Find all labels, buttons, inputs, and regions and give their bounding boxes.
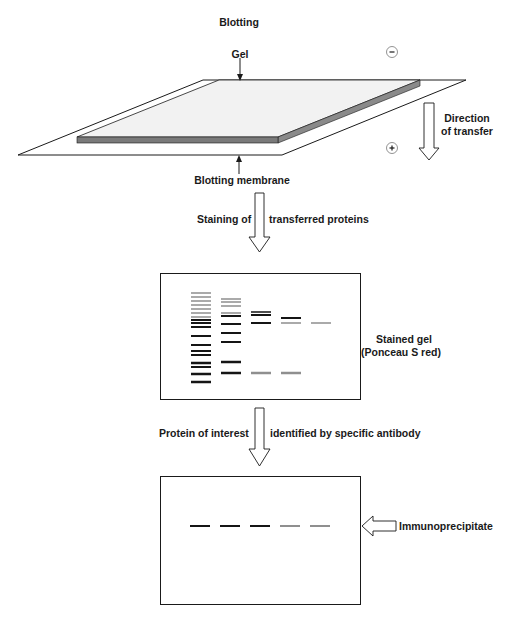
gel-label: Gel <box>232 48 249 61</box>
stained-band-lane-3 <box>251 372 271 375</box>
staining-label-right: transferred proteins <box>269 213 369 226</box>
stained-gel-line-1: Stained gel <box>367 333 441 346</box>
stained-band-lane-4 <box>281 317 301 319</box>
stained-band-lane-1 <box>191 335 211 337</box>
antibody-arrow-icon <box>249 408 270 466</box>
stained-band-lane-1 <box>191 296 211 298</box>
stained-band-lane-1 <box>191 292 211 294</box>
stained-band-lane-1 <box>191 308 211 310</box>
immunoblot-band-lane-4 <box>280 525 300 527</box>
stained-band-lane-5 <box>311 322 331 324</box>
stained-band-lane-1 <box>191 366 211 368</box>
immunoblot-band-lane-5 <box>310 525 330 527</box>
stained-gel-label: Stained gel (Ponceau S red) <box>367 333 441 359</box>
stained-gel-line-2: (Ponceau S red) <box>361 346 441 359</box>
stained-band-lane-2 <box>221 298 241 300</box>
staining-arrow-icon <box>249 193 270 252</box>
stained-band-lane-2 <box>221 341 241 343</box>
stained-band-lane-1 <box>191 312 211 314</box>
stained-band-lane-1 <box>191 373 211 376</box>
stained-band-lane-1 <box>191 354 211 356</box>
protein-of-interest-label: Protein of interest <box>159 427 249 440</box>
direction-line-2: of transfer <box>441 125 493 138</box>
staining-label-left: Staining of <box>197 213 251 226</box>
stained-band-lane-1 <box>191 319 211 321</box>
direction-line-1: Direction <box>441 112 493 125</box>
stained-band-lane-1 <box>191 322 211 324</box>
gel-front-face <box>77 137 278 143</box>
stained-band-lane-2 <box>221 315 241 317</box>
direction-of-transfer-arrow-icon <box>419 103 439 160</box>
stained-band-lane-1 <box>191 344 211 346</box>
stained-band-lane-2 <box>221 361 241 364</box>
stained-band-lane-3 <box>251 314 271 316</box>
immunoblot-band-lane-2 <box>220 525 240 527</box>
blotting-membrane-label: Blotting membrane <box>194 174 290 187</box>
stained-gel-box <box>161 274 361 400</box>
stained-band-lane-1 <box>191 350 211 352</box>
immunoblot-band-lane-3 <box>250 525 270 527</box>
immunoprecipitate-arrow-icon <box>362 516 396 536</box>
diagram-title: Blotting <box>219 16 259 29</box>
direction-of-transfer-label: Direction of transfer <box>441 112 493 138</box>
immunoblot-box <box>161 477 361 605</box>
stained-band-lane-2 <box>221 332 241 334</box>
stained-band-lane-2 <box>221 372 241 375</box>
stained-band-lane-1 <box>191 362 211 365</box>
stained-band-lane-1 <box>191 381 211 384</box>
stained-band-lane-3 <box>251 311 271 313</box>
stained-band-lane-1 <box>191 316 211 318</box>
stained-band-lane-2 <box>221 323 241 325</box>
stained-band-lane-1 <box>191 300 211 302</box>
stained-band-lane-1 <box>191 326 211 328</box>
membrane-pointer-arrowhead-icon <box>236 155 242 162</box>
antibody-label: identified by specific antibody <box>270 427 421 440</box>
stained-band-lane-2 <box>221 312 241 314</box>
stained-band-lane-3 <box>251 322 271 324</box>
immunoprecipitate-label: Immunoprecipitate <box>399 520 493 533</box>
stained-band-lane-1 <box>191 304 211 306</box>
stained-band-lane-4 <box>281 322 301 324</box>
stained-band-lane-4 <box>281 372 301 375</box>
immunoblot-band-lane-1 <box>190 525 210 527</box>
stained-band-lane-2 <box>221 305 241 307</box>
stained-band-lane-2 <box>221 301 241 303</box>
